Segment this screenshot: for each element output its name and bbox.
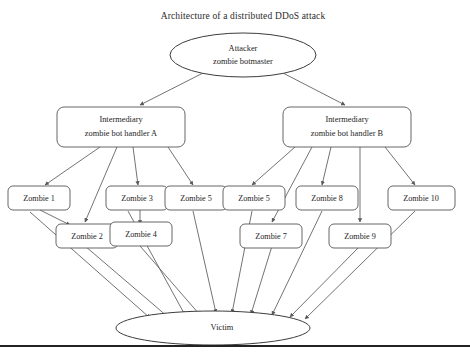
handler-b-box — [283, 107, 411, 147]
node-victim[interactable]: Victim — [116, 311, 310, 345]
zombie-9-label: Zombie 9 — [344, 232, 376, 241]
zombie-bottom-row: Zombie 2 Zombie 4 Zombie 7 Zombie 9 — [56, 222, 391, 248]
victim-label: Victim — [211, 323, 234, 332]
node-attacker[interactable]: Attacker zombie botmaster — [170, 33, 316, 77]
figure-title: Architecture of a distributed DDoS attac… — [161, 11, 326, 21]
edge-handler-a-to-zombie-2 — [85, 147, 117, 222]
node-zombie-9[interactable]: Zombie 9 — [329, 224, 391, 248]
node-zombie-5a[interactable]: Zombie 5 — [165, 186, 227, 210]
node-zombie-5b[interactable]: Zombie 5 — [223, 186, 285, 210]
handler-b-label-line1: Intermediary — [325, 115, 369, 124]
attacker-label-line1: Attacker — [229, 44, 258, 53]
edge-attacker-to-handler-a — [140, 72, 205, 105]
edge-handler-a-to-zombie-5a — [168, 147, 193, 185]
handler-a-label-line2: zombie bot handler A — [85, 129, 157, 138]
handler-a-box — [57, 107, 185, 147]
edge-zombie-4-to-victim — [140, 246, 200, 315]
node-zombie-2[interactable]: Zombie 2 — [56, 224, 118, 248]
edge-attacker-to-handler-b — [281, 72, 345, 105]
ddos-diagram-canvas: Architecture of a distributed DDoS attac… — [0, 0, 470, 357]
zombie-3-label: Zombie 3 — [121, 194, 153, 203]
edge-zombie-1-to-zombie-2 — [40, 210, 70, 225]
edge-handler-b-to-zombie-7 — [272, 147, 312, 222]
zombie-7-label: Zombie 7 — [255, 232, 287, 241]
ddos-architecture-figure: Architecture of a distributed DDoS attac… — [0, 0, 470, 357]
node-handler-b[interactable]: Intermediary zombie bot handler B — [283, 107, 411, 147]
edge-handler-b-to-zombie-8 — [322, 147, 331, 185]
zombie-8-label: Zombie 8 — [311, 194, 343, 203]
node-handler-a[interactable]: Intermediary zombie bot handler A — [57, 107, 185, 147]
node-zombie-1[interactable]: Zombie 1 — [8, 186, 70, 210]
edge-handler-a-to-zombie-3 — [133, 147, 138, 185]
edges-handler-b-to-zombies — [252, 147, 415, 222]
handler-a-label-line1: Intermediary — [99, 115, 143, 124]
handler-b-label-line2: zombie bot handler B — [311, 129, 384, 138]
edges-handler-a-to-zombies — [45, 147, 193, 222]
edge-zombie-7-to-victim — [251, 246, 272, 314]
edge-handler-b-to-zombie-10 — [385, 147, 415, 185]
edge-handler-b-to-zombie-5b — [252, 147, 295, 185]
zombie-4-label: Zombie 4 — [125, 230, 157, 239]
node-zombie-7[interactable]: Zombie 7 — [240, 224, 302, 248]
node-zombie-10[interactable]: Zombie 10 — [388, 186, 455, 210]
attacker-label-line2: zombie botmaster — [213, 57, 273, 66]
node-zombie-3[interactable]: Zombie 3 — [106, 186, 168, 210]
attacker-ellipse — [170, 33, 316, 77]
zombie-5a-label: Zombie 5 — [180, 194, 212, 203]
zombie-2-label: Zombie 2 — [71, 232, 103, 241]
zombie-10-label: Zombie 10 — [403, 194, 439, 203]
zombie-5b-label: Zombie 5 — [238, 194, 270, 203]
edge-handler-a-to-zombie-1 — [45, 147, 100, 185]
edge-zombie-2-to-victim — [85, 246, 168, 317]
node-zombie-4[interactable]: Zombie 4 — [110, 222, 172, 246]
zombie-top-row: Zombie 1 Zombie 3 Zombie 5 Zombie 5 Zomb… — [8, 186, 455, 210]
node-zombie-8[interactable]: Zombie 8 — [296, 186, 358, 210]
edge-zombie-5a-to-victim — [193, 211, 216, 313]
zombie-1-label: Zombie 1 — [23, 194, 55, 203]
